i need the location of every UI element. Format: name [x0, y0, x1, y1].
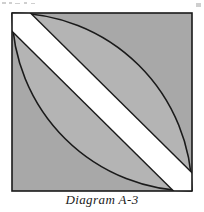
scan-speck	[31, 3, 35, 4]
scan-speck	[196, 3, 201, 7]
diagram-canvas	[0, 0, 204, 212]
scan-speck	[9, 2, 12, 4]
scan-speck	[15, 3, 20, 4]
figure-caption: Diagram A-3	[0, 192, 204, 208]
figure-page: Diagram A-3	[0, 0, 204, 212]
scan-speck	[2, 2, 6, 4]
scan-speck	[24, 2, 27, 4]
